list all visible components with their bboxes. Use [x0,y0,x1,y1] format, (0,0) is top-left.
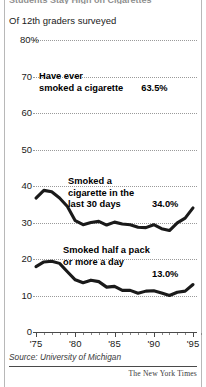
annotation-last-30-days-line1: Smoked a [68,176,134,188]
annotation-ever-smoked-line1: Have ever [39,71,168,83]
annotation-last-30-days-value: 34.0% [152,199,178,211]
annotation-ever-smoked-line2: smoked a cigarette [39,83,123,95]
annotation-last-30-days-line3: last 30 days [68,199,134,211]
annotation-half-pack-line1: Smoked half a pack [63,245,150,257]
annotation-last-30-days: Smoked a cigarette in the last 30 days [68,176,134,211]
annotation-ever-smoked: Have ever smoked a cigarette 63.5% [39,71,168,94]
annotation-half-pack-line2: or more a day [63,257,150,269]
annotation-half-pack: Smoked half a pack or more a day [63,245,150,268]
annotation-half-pack-value: 13.0% [152,269,178,281]
nyt-smoking-chart-figure: Students Stay High on Cigarettes Of 12th… [0,0,206,387]
footer-rule [9,366,197,367]
annotation-ever-smoked-value: 63.5% [141,83,167,95]
nyt-credit: The New York Times [128,369,197,378]
source-note: Source: University of Michigan [9,352,121,362]
annotation-last-30-days-line2: cigarette in the [68,188,134,200]
